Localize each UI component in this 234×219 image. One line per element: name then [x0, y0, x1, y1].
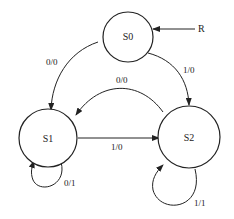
edge-s0-s2: [148, 53, 189, 105]
state-s1-label: S1: [43, 133, 54, 144]
state-s2: S2: [158, 106, 220, 168]
state-s0: S0: [103, 12, 153, 62]
edge-label-s0-s2: 1/0: [183, 65, 195, 75]
state-s2-label: S2: [184, 132, 195, 143]
state-s1: S1: [19, 109, 77, 167]
edge-label-s1-s2: 1/0: [111, 142, 123, 152]
edge-label-s2-self: 1/1: [194, 198, 206, 208]
edge-s0-s1: [51, 42, 98, 110]
edge-s2-self: [153, 165, 197, 205]
edge-label-s2-s1: 0/0: [116, 75, 128, 85]
edge-s2-s1: [76, 88, 163, 115]
state-diagram: R 0/0 1/0 0/0 1/0 0/1 1/1 S0 S1 S2: [0, 0, 234, 219]
edge-label-s0-s1: 0/0: [46, 57, 58, 67]
edge-label-s1-self: 0/1: [64, 178, 76, 188]
reset-label: R: [198, 23, 205, 34]
state-s0-label: S0: [123, 31, 134, 42]
